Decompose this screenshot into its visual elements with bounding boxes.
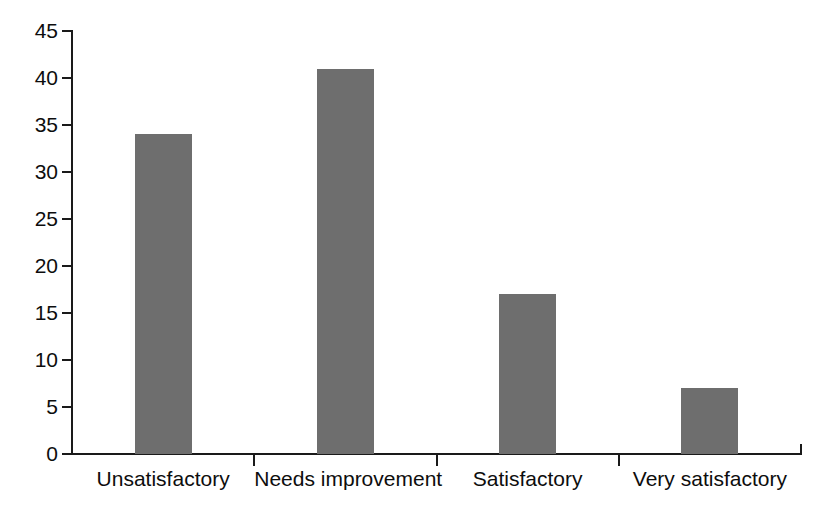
x-axis-category-label: Very satisfactory — [619, 468, 801, 490]
y-axis-tick — [62, 30, 72, 32]
x-axis-tick — [436, 455, 438, 466]
y-axis-tick — [62, 406, 72, 408]
y-axis-tick-label: 10 — [12, 349, 58, 370]
y-axis-tick — [62, 77, 72, 79]
bar — [135, 134, 192, 454]
y-axis-tick-label: 25 — [12, 208, 58, 229]
x-axis-tick — [253, 455, 255, 466]
x-axis-category-label: Unsatisfactory — [72, 468, 254, 490]
y-axis-tick — [62, 171, 72, 173]
bar — [317, 69, 374, 454]
y-axis-tick — [62, 453, 72, 455]
bar-chart: 051015202530354045 UnsatisfactoryNeeds i… — [0, 0, 830, 514]
y-axis-tick — [62, 124, 72, 126]
x-axis-right-cap — [800, 444, 802, 455]
x-axis-category-label: Needs improvement — [254, 468, 436, 490]
bar — [499, 294, 556, 454]
x-axis-category-label: Satisfactory — [437, 468, 619, 490]
y-axis-line — [71, 30, 73, 455]
y-axis-tick-label: 15 — [12, 302, 58, 323]
y-axis-tick — [62, 218, 72, 220]
y-axis-tick — [62, 265, 72, 267]
bar — [681, 388, 738, 454]
y-axis-tick-label: 30 — [12, 161, 58, 182]
y-axis-tick-label: 45 — [12, 20, 58, 41]
y-axis-tick-label: 40 — [12, 67, 58, 88]
y-axis-tick-label: 20 — [12, 255, 58, 276]
x-axis-tick — [618, 455, 620, 466]
y-axis-tick — [62, 359, 72, 361]
y-axis-tick-label: 35 — [12, 114, 58, 135]
y-axis-tick — [62, 312, 72, 314]
y-axis-tick-label: 0 — [12, 443, 58, 464]
y-axis-tick-label: 5 — [12, 396, 58, 417]
